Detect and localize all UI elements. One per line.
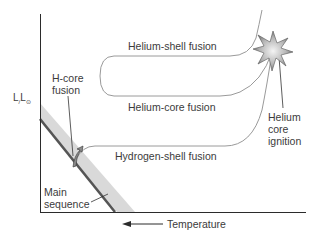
label-helium-shell-fusion: Helium-shell fusion [128,40,217,52]
label-h-core-fusion: H-core fusion [52,72,84,96]
y-label-sun: ⊙ [26,99,31,105]
ignition-leader [279,57,283,108]
label-helium-core-ignition: Helium core ignition [268,111,301,147]
label-hydrogen-shell-fusion: Hydrogen-shell fusion [115,150,217,162]
y-axis-label: L/L⊙ [13,92,31,105]
helium-flash-star-icon [253,31,293,71]
x-axis-label: Temperature [167,218,226,230]
evolutionary-track [76,10,272,160]
label-helium-core-fusion: Helium-core fusion [128,101,216,113]
temperature-arrow-icon [122,221,131,227]
label-main-sequence: Main sequence [44,186,90,210]
